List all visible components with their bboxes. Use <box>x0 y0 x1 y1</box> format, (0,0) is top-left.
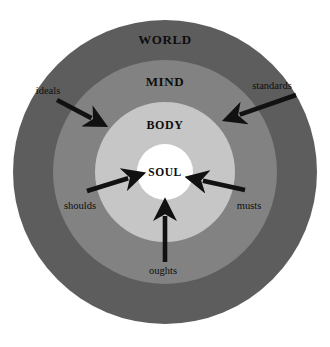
arrow-shoulds <box>87 178 128 191</box>
arrow-musts <box>203 181 245 190</box>
arrow-label-musts: musts <box>237 200 262 211</box>
arrow-layer <box>0 0 330 347</box>
arrow-label-shoulds: shoulds <box>64 200 96 211</box>
arrow-label-standards: standards <box>252 80 292 91</box>
arrow-ideals <box>57 100 91 118</box>
arrow-label-oughts: oughts <box>149 265 177 276</box>
arrow-label-ideals: ideals <box>36 85 61 96</box>
concentric-zones-diagram: WORLD MIND BODY SOUL ideals standards sh… <box>0 0 330 347</box>
arrow-standards <box>240 95 296 115</box>
